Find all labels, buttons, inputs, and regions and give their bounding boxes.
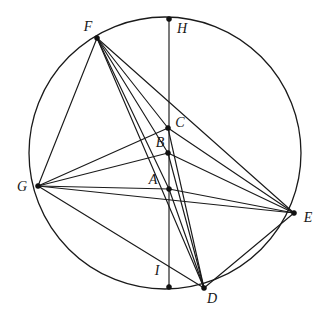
vertex-dot-f — [95, 36, 100, 41]
segment-D-A — [169, 189, 204, 288]
segment-C-E — [168, 128, 294, 213]
segment-D-E — [204, 213, 294, 288]
point-label-h: H — [176, 21, 188, 36]
vertex-dot-g — [36, 184, 41, 189]
point-label-g: G — [17, 179, 27, 194]
vertex-dot-i — [167, 285, 172, 290]
vertex-dot-b — [166, 151, 171, 156]
vertex-dot-h — [167, 17, 172, 22]
vertex-dot-a — [167, 187, 172, 192]
main-circle — [29, 17, 301, 289]
point-label-a: A — [148, 172, 158, 187]
point-label-e: E — [303, 210, 313, 225]
point-label-f: F — [83, 19, 93, 34]
segment-F-E — [97, 38, 294, 213]
vertex-dot-d — [202, 286, 207, 291]
point-label-i: I — [154, 263, 161, 278]
point-label-c: C — [175, 115, 185, 130]
segment-B-E — [168, 153, 294, 213]
segment-D-B — [168, 153, 204, 288]
geometry-figure: FHCBAGEDI — [0, 0, 329, 317]
vertex-dot-c — [166, 126, 171, 131]
vertex-dots-group — [36, 17, 297, 291]
segment-F-A — [97, 38, 169, 189]
segment-F-C — [97, 38, 168, 128]
point-labels-group: FHCBAGEDI — [17, 19, 313, 306]
vertex-dot-e — [292, 211, 297, 216]
point-label-d: D — [206, 291, 217, 306]
point-label-b: B — [156, 135, 165, 150]
geometry-canvas: FHCBAGEDI — [0, 0, 329, 317]
segment-D-C — [168, 128, 204, 288]
